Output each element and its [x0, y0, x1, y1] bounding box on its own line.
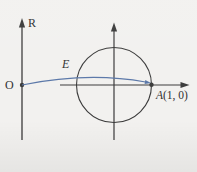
- point-a-label: A(1, 0): [155, 89, 188, 102]
- diagram-canvas: R O E A(1, 0): [0, 0, 197, 172]
- mapping-diagram: R O E A(1, 0): [0, 0, 197, 172]
- point-a: [149, 83, 153, 87]
- real-line-label: R: [28, 16, 36, 30]
- point-a-label-coordinates: (1, 0): [163, 89, 188, 102]
- map-label: E: [61, 57, 70, 71]
- origin-label: O: [5, 78, 14, 92]
